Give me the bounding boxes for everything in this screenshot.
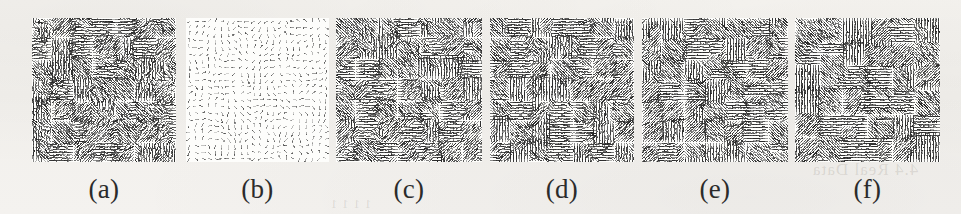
vector-field-panel-f [795,18,940,162]
vector-field-panel-e [642,18,788,162]
vector-field-panel-b [186,18,329,162]
vector-field-panel-d [490,18,634,162]
vector-field-panel-c [336,18,482,162]
panel-label-e: (e) [642,172,788,206]
panel-label-b: (b) [186,172,329,206]
panel-label-d: (d) [490,172,634,206]
panel-label-f: (f) [795,172,940,206]
figure-panel-row: (a)(b)(c)(d)(e)(f) [0,0,961,214]
panel-label-a: (a) [32,172,176,206]
panel-label-c: (c) [336,172,482,206]
vector-field-panel-a [32,18,176,162]
